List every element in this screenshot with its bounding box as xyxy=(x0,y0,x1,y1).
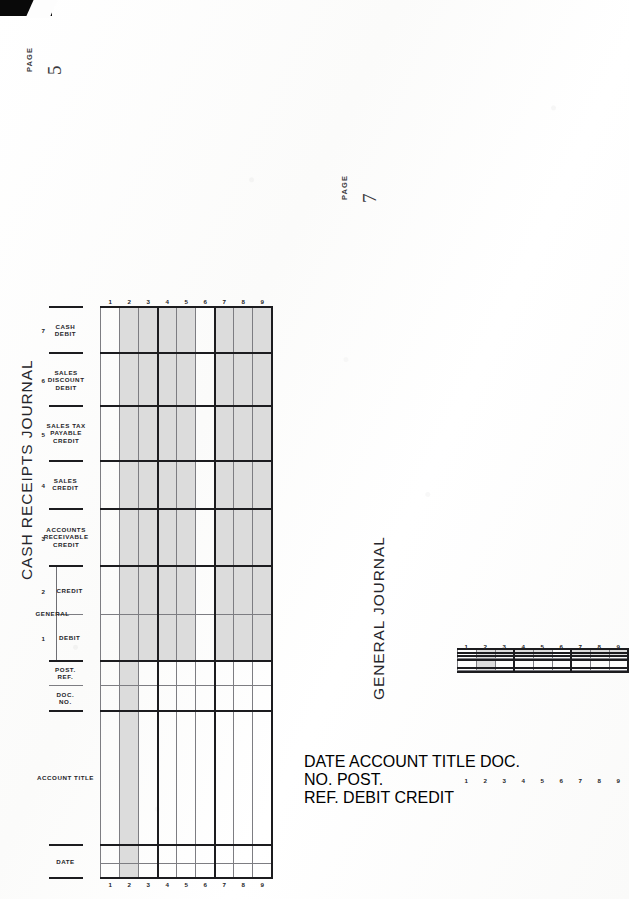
cell-sales-tax-credit[interactable] xyxy=(215,406,234,460)
cell-accounts-receivable-credit[interactable] xyxy=(158,509,177,566)
cell-debit[interactable] xyxy=(514,653,533,656)
cell-date-day[interactable] xyxy=(253,845,272,864)
cell-general-debit[interactable] xyxy=(177,615,196,661)
cell-account-title[interactable] xyxy=(571,660,590,668)
cell-debit[interactable] xyxy=(609,653,628,656)
cell-account-title[interactable] xyxy=(158,711,177,845)
cell-post-ref[interactable] xyxy=(158,661,177,686)
cell-post-ref[interactable] xyxy=(215,661,234,686)
cell-account-title[interactable] xyxy=(457,660,476,668)
cell-credit[interactable] xyxy=(533,649,552,652)
table-row[interactable]: 6 6 xyxy=(552,644,571,888)
cell-sales-credit[interactable] xyxy=(177,461,196,509)
cell-accounts-receivable-credit[interactable] xyxy=(101,509,120,566)
cell-debit[interactable] xyxy=(552,653,571,656)
cell-date-day[interactable] xyxy=(120,845,139,864)
cell-sales-tax-credit[interactable] xyxy=(101,406,120,460)
cell-accounts-receivable-credit[interactable] xyxy=(139,509,158,566)
cell-date-day[interactable] xyxy=(101,845,120,864)
cell-post-ref[interactable] xyxy=(101,661,120,686)
cell-doc-no[interactable] xyxy=(120,686,139,711)
cell-account-title[interactable] xyxy=(101,711,120,845)
cell-debit[interactable] xyxy=(495,653,514,656)
cell-account-title[interactable] xyxy=(495,660,514,668)
cell-account-title[interactable] xyxy=(177,711,196,845)
cell-sales-tax-credit[interactable] xyxy=(234,406,253,460)
table-row[interactable]: 8 8 xyxy=(234,297,253,888)
cell-general-credit[interactable] xyxy=(253,566,272,614)
cell-date-day[interactable] xyxy=(552,668,571,670)
cell-date-month[interactable] xyxy=(177,864,196,878)
cell-credit[interactable] xyxy=(495,649,514,652)
cell-account-title[interactable] xyxy=(139,711,158,845)
cell-general-credit[interactable] xyxy=(196,566,215,614)
cell-doc-no[interactable] xyxy=(514,658,533,660)
cell-account-title[interactable] xyxy=(234,711,253,845)
cell-credit[interactable] xyxy=(590,649,609,652)
cell-doc-no[interactable] xyxy=(571,658,590,660)
cell-general-debit[interactable] xyxy=(196,615,215,661)
cell-cash-debit[interactable] xyxy=(158,307,177,353)
cell-date-month[interactable] xyxy=(590,670,609,672)
cell-accounts-receivable-credit[interactable] xyxy=(196,509,215,566)
cell-debit[interactable] xyxy=(457,653,476,656)
cell-sales-credit[interactable] xyxy=(120,461,139,509)
cell-account-title[interactable] xyxy=(609,660,628,668)
cell-general-credit[interactable] xyxy=(177,566,196,614)
cell-post-ref[interactable] xyxy=(234,661,253,686)
cell-debit[interactable] xyxy=(476,653,495,656)
cell-date-month[interactable] xyxy=(476,670,495,672)
cell-cash-debit[interactable] xyxy=(215,307,234,353)
cell-date-month[interactable] xyxy=(533,670,552,672)
cell-account-title[interactable] xyxy=(120,711,139,845)
cell-credit[interactable] xyxy=(514,649,533,652)
cell-accounts-receivable-credit[interactable] xyxy=(234,509,253,566)
cell-date-day[interactable] xyxy=(609,668,628,670)
cell-post-ref[interactable] xyxy=(253,661,272,686)
cell-sales-tax-credit[interactable] xyxy=(120,406,139,460)
cell-general-credit[interactable] xyxy=(120,566,139,614)
cell-post-ref[interactable] xyxy=(571,656,590,658)
table-row[interactable]: 7 7 xyxy=(571,644,590,888)
cell-date-day[interactable] xyxy=(139,845,158,864)
cell-date-month[interactable] xyxy=(139,864,158,878)
cell-date-day[interactable] xyxy=(590,668,609,670)
cell-doc-no[interactable] xyxy=(253,686,272,711)
cell-date-day[interactable] xyxy=(476,668,495,670)
cell-sales-credit[interactable] xyxy=(158,461,177,509)
cell-accounts-receivable-credit[interactable] xyxy=(253,509,272,566)
cell-sales-credit[interactable] xyxy=(139,461,158,509)
cell-date-day[interactable] xyxy=(533,668,552,670)
table-row[interactable]: 5 5 xyxy=(533,644,552,888)
cell-sales-discount-debit[interactable] xyxy=(101,353,120,406)
cell-post-ref[interactable] xyxy=(177,661,196,686)
cell-general-credit[interactable] xyxy=(139,566,158,614)
cell-sales-discount-debit[interactable] xyxy=(215,353,234,406)
cell-doc-no[interactable] xyxy=(590,658,609,660)
cell-date-month[interactable] xyxy=(253,864,272,878)
cell-general-credit[interactable] xyxy=(158,566,177,614)
cell-account-title[interactable] xyxy=(552,660,571,668)
cell-post-ref[interactable] xyxy=(590,656,609,658)
cell-doc-no[interactable] xyxy=(177,686,196,711)
cell-post-ref[interactable] xyxy=(609,656,628,658)
cell-general-debit[interactable] xyxy=(253,615,272,661)
cell-date-month[interactable] xyxy=(514,670,533,672)
cell-post-ref[interactable] xyxy=(495,656,514,658)
cell-general-debit[interactable] xyxy=(215,615,234,661)
cell-account-title[interactable] xyxy=(514,660,533,668)
cell-sales-discount-debit[interactable] xyxy=(120,353,139,406)
cell-cash-debit[interactable] xyxy=(253,307,272,353)
cell-account-title[interactable] xyxy=(196,711,215,845)
table-row[interactable]: 1 1 xyxy=(101,297,120,888)
cell-date-month[interactable] xyxy=(158,864,177,878)
cell-sales-credit[interactable] xyxy=(101,461,120,509)
cell-doc-no[interactable] xyxy=(476,658,495,660)
cell-doc-no[interactable] xyxy=(533,658,552,660)
cell-date-month[interactable] xyxy=(196,864,215,878)
cell-sales-credit[interactable] xyxy=(253,461,272,509)
table-row[interactable]: 8 8 xyxy=(590,644,609,888)
cell-date-month[interactable] xyxy=(120,864,139,878)
cell-cash-debit[interactable] xyxy=(196,307,215,353)
cell-sales-discount-debit[interactable] xyxy=(158,353,177,406)
